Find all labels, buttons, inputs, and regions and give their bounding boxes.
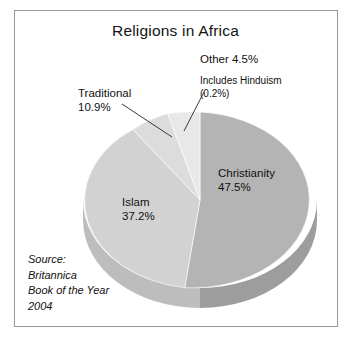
slice-label-traditional-name: Traditional: [78, 87, 131, 99]
slice-label-traditional: Traditional 10.9%: [78, 86, 131, 114]
slice-label-christianity-pct: 47.5%: [218, 180, 275, 194]
slice-note-other-line2: (0.2%): [200, 88, 229, 99]
slice-label-islam-pct: 37.2%: [122, 209, 155, 223]
slice-label-christianity-name: Christianity: [218, 167, 275, 179]
slice-label-islam-name: Islam: [122, 196, 149, 208]
source-line-3: Book of the Year: [28, 284, 109, 296]
slice-label-other-text: Other 4.5%: [200, 53, 258, 65]
source-line-4: 2004: [28, 300, 52, 312]
source-line-1: Source:: [28, 253, 66, 265]
source-note: Source: Britannica Book of the Year 2004: [28, 252, 109, 314]
source-line-2: Britannica: [28, 269, 77, 281]
slice-note-other: Includes Hinduism (0.2%): [200, 74, 282, 100]
slice-label-traditional-pct: 10.9%: [78, 100, 131, 114]
slice-label-other: Other 4.5%: [200, 52, 258, 66]
slice-note-other-line1: Includes Hinduism: [200, 75, 282, 86]
pie-chart-figure: Religions in Africa Other 4.5% Includes …: [0, 0, 351, 342]
slice-label-islam: Islam 37.2%: [122, 195, 155, 223]
pie-slices-group: [85, 112, 310, 288]
slice-label-christianity: Christianity 47.5%: [218, 166, 275, 194]
